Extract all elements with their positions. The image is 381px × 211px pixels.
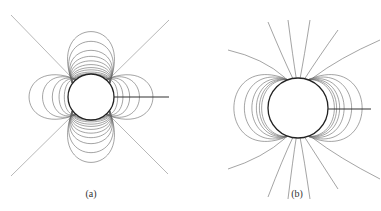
figure-canvas (0, 0, 381, 211)
figure-a-label: (a) (85, 188, 96, 199)
figure-b-label: (b) (291, 188, 303, 199)
figure-a-diagram (11, 15, 169, 176)
figure-b-diagram (228, 20, 380, 199)
